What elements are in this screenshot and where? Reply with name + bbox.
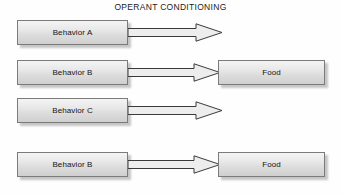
behavior-box-label: Behavior B: [52, 68, 92, 77]
behavior-box-label: Behavior C: [52, 106, 93, 115]
outcome-box-label: Food: [262, 68, 281, 77]
behavior-box-label: Behavior B: [52, 160, 92, 169]
outcome-box: Food: [218, 152, 325, 177]
diagram-row: Behavior B Food: [0, 152, 341, 182]
behavior-box: Behavior B: [17, 60, 128, 85]
outcome-box-label: Food: [262, 160, 281, 169]
right-arrow-icon: [128, 155, 221, 174]
right-arrow-icon: [128, 101, 223, 120]
behavior-box: Behavior C: [17, 98, 128, 123]
behavior-box-label: Behavior A: [53, 28, 93, 37]
operant-conditioning-diagram: OPERANT CONDITIONING Behavior A Behavior…: [0, 0, 341, 195]
behavior-box: Behavior A: [17, 20, 128, 45]
behavior-box: Behavior B: [17, 152, 128, 177]
diagram-row: Behavior C: [0, 98, 341, 128]
right-arrow-icon: [128, 23, 223, 42]
diagram-row: Behavior A: [0, 20, 341, 50]
diagram-row: Behavior B Food: [0, 60, 341, 90]
outcome-box: Food: [218, 60, 325, 85]
page-title: OPERANT CONDITIONING: [0, 2, 341, 12]
right-arrow-icon: [128, 63, 221, 82]
